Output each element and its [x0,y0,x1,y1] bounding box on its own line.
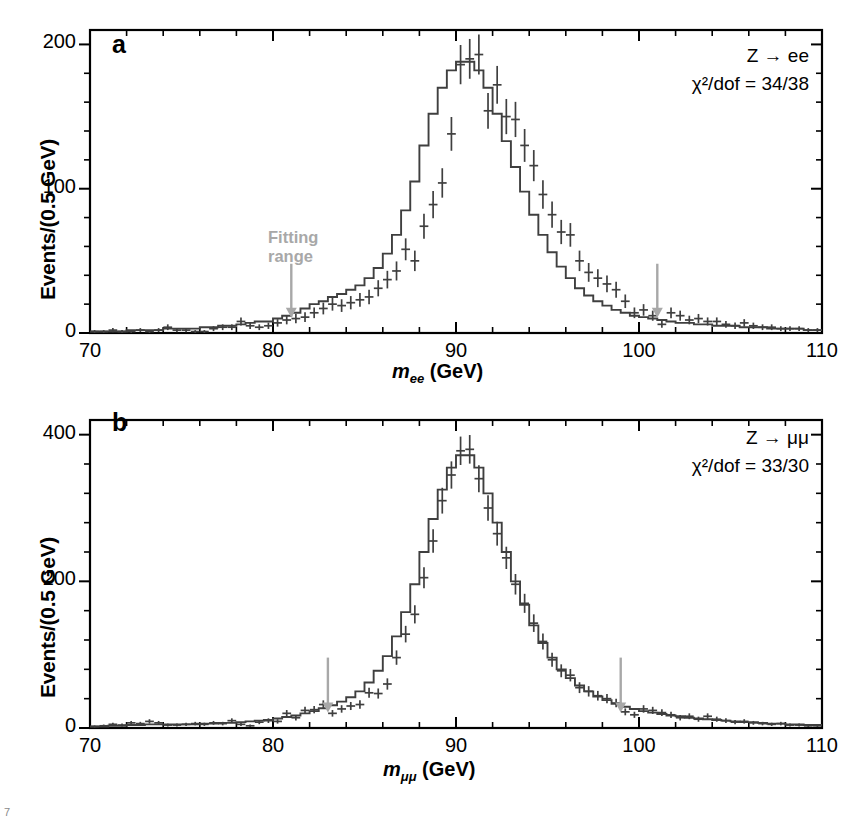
panel-a-y-axis-label: Events/(0.5 GeV) [36,139,60,300]
panel-b-x-axis-label: mμμ (GeV) [383,758,475,784]
panel-a-fitting-range-line1: Fitting [268,228,318,247]
panel-b-x-axis-label-subscript: μμ [401,769,417,784]
panel-b-letter: b [112,408,127,437]
figure-root: Events/(0.5 GeV) mee (GeV) a Z → ee χ²/d… [0,0,861,825]
panel-b-x-axis-label-symbol: m [383,758,401,780]
panel-a-letter: a [112,30,126,59]
y-tick-label: 400 [4,421,76,444]
panel-b-chi2-label: χ²/dof = 33/30 [692,452,809,480]
fitting-range-arrow [615,658,626,713]
panel-a-annotation: Z → ee χ²/dof = 34/38 [692,42,809,97]
corner-page-mark: 7 [4,806,11,818]
panel-b: Events/(0.5 GeV) mμμ (GeV) b Z → μμ χ²/d… [0,378,861,798]
fitting-range-arrow [652,264,663,318]
panel-a: Events/(0.5 GeV) mee (GeV) a Z → ee χ²/d… [0,0,861,400]
y-tick-label: 200 [4,567,76,590]
y-tick-label: 0 [4,319,76,342]
panel-a-fitting-range-label: Fitting range [268,228,318,266]
y-tick-label: 200 [4,30,76,53]
panel-a-chi2-label: χ²/dof = 34/38 [692,70,809,98]
panel-b-x-axis-label-unit: (GeV) [422,758,475,780]
panel-b-y-axis-label: Events/(0.5 GeV) [36,537,60,698]
x-tick-label: 90 [426,339,486,362]
x-tick-label: 90 [426,734,486,757]
fitting-range-arrow [286,264,297,318]
panel-a-fitting-range-line2: range [268,247,318,266]
panel-b-process-label: Z → μμ [692,424,809,452]
x-tick-label: 80 [243,734,303,757]
x-tick-label: 110 [792,339,852,362]
x-tick-label: 100 [609,339,669,362]
y-tick-label: 100 [4,175,76,198]
x-tick-label: 100 [609,734,669,757]
x-tick-label: 110 [792,734,852,757]
x-tick-label: 70 [60,339,120,362]
panel-b-annotation: Z → μμ χ²/dof = 33/30 [692,424,809,479]
fitting-range-arrow [322,658,333,713]
x-tick-label: 80 [243,339,303,362]
panel-a-process-label: Z → ee [692,42,809,70]
y-tick-label: 0 [4,714,76,737]
x-tick-label: 70 [60,734,120,757]
